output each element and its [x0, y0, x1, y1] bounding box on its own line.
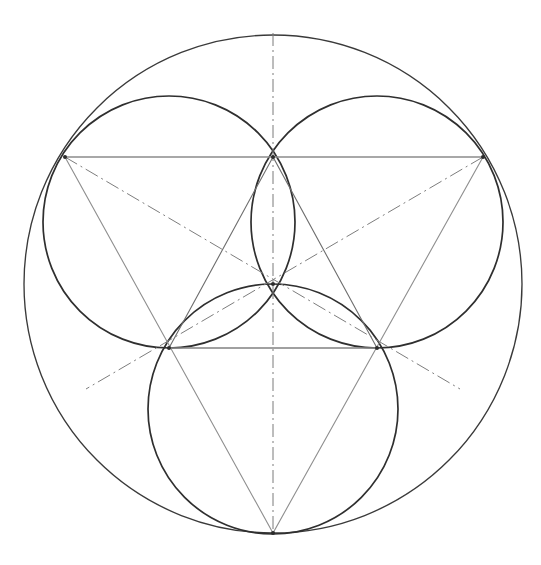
node-center [271, 282, 275, 286]
node-mid-right [375, 346, 379, 350]
node-mid-left [167, 346, 171, 350]
vertex-bottom [271, 531, 275, 535]
geometric-construction-drawing [0, 0, 541, 565]
vertex-top-left [63, 155, 67, 159]
vertex-top-right [481, 155, 485, 159]
node-top-center [271, 155, 275, 159]
figure-canvas: Geometric Construction — Triquetra in Ci… [0, 0, 541, 565]
paper-background [0, 0, 541, 565]
